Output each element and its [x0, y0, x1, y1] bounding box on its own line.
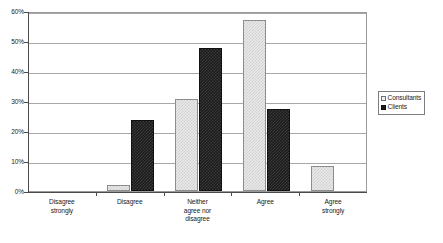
x-axis-category-label: Agreestrongly [299, 198, 367, 215]
x-axis-category-label: Disagree [96, 198, 164, 207]
y-axis-tick-mark [24, 192, 28, 193]
x-axis-category-label-line: disagree [164, 215, 232, 224]
x-axis-category-label: Neitheragree nordisagree [164, 198, 232, 224]
bar-consultants-1 [107, 185, 130, 191]
x-axis-tick-mark [164, 192, 165, 196]
y-axis-tick-mark [24, 132, 28, 133]
y-axis-tick-label: 30% [2, 99, 24, 106]
bar-consultants-2 [175, 99, 198, 191]
legend-item-label: Clients [388, 104, 407, 111]
x-axis-line [28, 192, 367, 193]
legend-item-consultants[interactable]: Consultants [381, 94, 421, 103]
y-axis-tick-mark [24, 102, 28, 103]
x-axis-category-label: Disagreestrongly [28, 198, 96, 215]
x-axis-category-label-line: agree nor [164, 207, 232, 216]
y-axis-tick-label: 40% [2, 69, 24, 76]
x-axis-tick-mark [96, 192, 97, 196]
gridline [29, 73, 366, 74]
x-axis-category-label-line: Disagree [28, 198, 96, 207]
x-axis-category-label-line: Agree [299, 198, 367, 207]
y-axis-tick-mark [24, 12, 28, 13]
gridline [29, 43, 366, 44]
bar-clients-1 [131, 120, 154, 191]
y-axis-tick-label: 10% [2, 159, 24, 166]
plot-area [28, 12, 367, 192]
bar-clients-3 [267, 109, 290, 191]
legend-item-clients[interactable]: Clients [381, 103, 421, 112]
bar-consultants-4 [311, 166, 334, 191]
legend-swatch-icon [381, 105, 386, 110]
bar-chart: 0%10%20%30%40%50%60% DisagreestronglyDis… [0, 0, 443, 243]
legend-swatch-icon [381, 96, 386, 101]
y-axis-line [28, 12, 29, 193]
x-axis-tick-mark [299, 192, 300, 196]
gridline [29, 13, 366, 14]
y-axis-tick-label: 20% [2, 129, 24, 136]
x-axis-category-label: Agree [231, 198, 299, 207]
x-axis-category-label-line: strongly [299, 207, 367, 216]
bar-clients-2 [199, 48, 222, 191]
x-axis-category-label-line: Agree [231, 198, 299, 207]
legend-item-label: Consultants [388, 95, 422, 102]
bar-consultants-3 [243, 20, 266, 191]
y-axis-tick-labels: 0%10%20%30%40%50%60% [0, 0, 24, 243]
x-axis-category-label-line: Disagree [96, 198, 164, 207]
y-axis-tick-label: 60% [2, 9, 24, 16]
x-axis-category-label-line: strongly [28, 207, 96, 216]
y-axis-tick-mark [24, 42, 28, 43]
chart-legend: ConsultantsClients [378, 91, 425, 115]
y-axis-tick-label: 0% [2, 189, 24, 196]
x-axis-category-label-line: Neither [164, 198, 232, 207]
x-axis-tick-mark [231, 192, 232, 196]
y-axis-tick-mark [24, 162, 28, 163]
y-axis-tick-label: 50% [2, 39, 24, 46]
y-axis-tick-mark [24, 72, 28, 73]
